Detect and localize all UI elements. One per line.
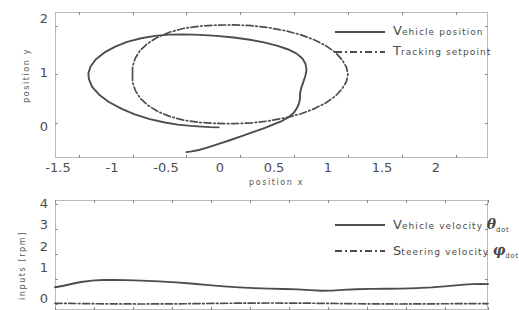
- tick-mark: [294, 12, 295, 15]
- tick-mark: [485, 304, 488, 305]
- position-ytick-0: 0: [28, 119, 48, 134]
- tick-mark: [250, 200, 251, 203]
- legend-line-sample-solid: [335, 31, 385, 33]
- tick-mark: [211, 200, 212, 203]
- legend-label-steering-velocity: Steering velocity φdot: [393, 242, 519, 260]
- tick-mark: [94, 200, 95, 203]
- position-xtick-0: -1.5: [45, 160, 70, 175]
- legend-label-vehicle-position: Vehicle position: [393, 23, 484, 38]
- position-y-axis-label: position y: [22, 48, 31, 103]
- inputs-ytick-3: 3: [28, 217, 48, 232]
- position-xtick-1: -1: [106, 160, 119, 175]
- inputs-ytick-2: 2: [28, 239, 48, 254]
- tick-mark: [456, 12, 457, 15]
- tick-mark: [133, 155, 134, 158]
- inputs-ytick-0: 0: [28, 291, 48, 306]
- legend-line-sample-dashdot: [335, 250, 385, 252]
- inputs-y-axis-label: inputs [rpm]: [18, 231, 27, 300]
- tick-mark: [55, 279, 58, 280]
- tick-mark: [488, 200, 489, 203]
- tick-mark: [133, 200, 134, 203]
- position-xtick-7: 2: [432, 160, 440, 175]
- legend-line-sample-solid: [335, 224, 385, 226]
- tick-mark: [240, 155, 241, 158]
- tick-mark: [456, 155, 457, 158]
- legend-label-tracking-setpoint: Tracking setpoint: [393, 43, 491, 58]
- legend-line-sample-dashdot: [335, 51, 385, 53]
- tick-mark: [348, 155, 349, 158]
- position-ytick-1: 1: [28, 65, 48, 80]
- tick-mark: [367, 200, 368, 203]
- tick-mark: [133, 12, 134, 15]
- position-xtick-3: 0: [216, 160, 224, 175]
- position-xtick-5: 1: [324, 160, 332, 175]
- tick-mark: [55, 304, 58, 305]
- tick-mark: [402, 155, 403, 158]
- tick-mark: [485, 26, 488, 27]
- position-xtick-2: -0.5: [153, 160, 178, 175]
- position-xtick-6: 1.5: [372, 160, 393, 175]
- tick-mark: [55, 254, 58, 255]
- tick-mark: [55, 204, 58, 205]
- tick-mark: [55, 74, 58, 75]
- legend-label-vehicle-velocity: Vehicle velocity θdot: [393, 216, 509, 234]
- position-x-axis-label: position x: [249, 178, 304, 187]
- tick-mark: [485, 204, 488, 205]
- tick-mark: [55, 26, 58, 27]
- tick-mark: [485, 74, 488, 75]
- tick-mark: [79, 12, 80, 15]
- tick-mark: [55, 229, 58, 230]
- tick-mark: [485, 279, 488, 280]
- tick-mark: [445, 200, 446, 203]
- inputs-ytick-4: 4: [28, 196, 48, 211]
- tick-mark: [289, 200, 290, 203]
- tick-mark: [240, 12, 241, 15]
- position-xtick-4: 0.5: [264, 160, 285, 175]
- tick-mark: [186, 12, 187, 15]
- tick-mark: [294, 155, 295, 158]
- tick-mark: [406, 200, 407, 203]
- position-ytick-2: 2: [28, 11, 48, 26]
- tick-mark: [55, 200, 56, 203]
- tick-mark: [328, 200, 329, 203]
- tick-mark: [186, 155, 187, 158]
- tick-mark: [55, 123, 58, 124]
- tick-mark: [402, 12, 403, 15]
- inputs-ytick-1: 1: [28, 260, 48, 275]
- tick-mark: [79, 155, 80, 158]
- tick-mark: [172, 200, 173, 203]
- tick-mark: [348, 12, 349, 15]
- tick-mark: [485, 123, 488, 124]
